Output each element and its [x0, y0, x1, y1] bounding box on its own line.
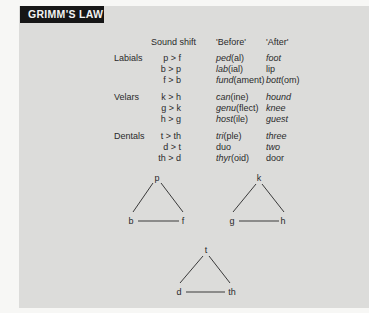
triangle-labials-top: p	[154, 173, 159, 183]
triangle-velars-left: g	[229, 216, 234, 226]
triangle-dentals-left: d	[176, 287, 181, 297]
triangle-dentals-right: th	[228, 287, 236, 297]
triangle-velars-right: h	[280, 216, 285, 226]
triangle-diagrams: p b f k g h t d th	[0, 0, 369, 313]
triangle-dentals-top: t	[205, 245, 208, 255]
triangle-labials-right: f	[182, 216, 185, 226]
triangle-velars-top: k	[257, 173, 262, 183]
triangle-labials-left: b	[128, 216, 133, 226]
